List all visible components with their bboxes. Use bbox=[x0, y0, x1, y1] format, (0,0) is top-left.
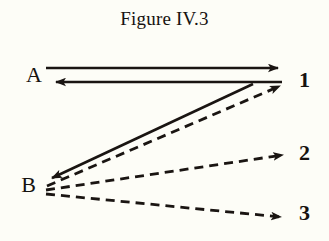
node-label-3: 3 bbox=[299, 202, 327, 224]
edge-1-to-b bbox=[52, 84, 253, 178]
node-label-b: B bbox=[8, 174, 36, 196]
node-label-2: 2 bbox=[299, 142, 327, 164]
figure-container: Figure IV.3 A B 1 2 3 bbox=[0, 0, 329, 241]
edge-b-to-3 bbox=[46, 194, 281, 217]
node-label-1: 1 bbox=[299, 69, 327, 91]
edge-b-to-1 bbox=[47, 86, 280, 186]
diagram-canvas bbox=[0, 0, 329, 241]
node-label-a: A bbox=[14, 64, 42, 86]
